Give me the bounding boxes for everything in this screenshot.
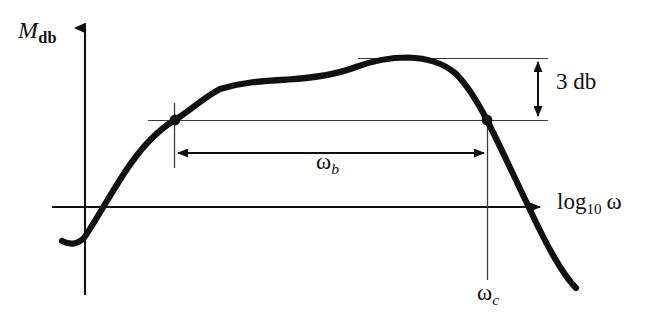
dimension-arrows-group [178, 62, 538, 153]
cutoff-point-dot [482, 115, 493, 126]
y-axis-label-subscript: db [38, 28, 56, 47]
bandwidth-label-subscript: b [331, 160, 339, 177]
bandwidth-label-base: ω [316, 149, 331, 174]
x-axis-label-subscript: 10 [586, 200, 601, 217]
x-axis-label: log10ω [557, 190, 622, 213]
reference-lines-group [148, 59, 548, 281]
cutoff-label-base: ω [477, 280, 492, 305]
bandwidth-lower-point-dot [170, 115, 181, 126]
gain-drop-label: 3 db [556, 70, 596, 93]
bode-plot-figure: Mdb log10ω 3 db ωb ωc [0, 0, 647, 316]
x-axis-label-omega: ω [607, 189, 622, 214]
bandwidth-label: ωb [316, 150, 339, 173]
x-axis-label-base: log [557, 189, 586, 214]
y-axis-label: Mdb [18, 18, 56, 42]
cutoff-label-subscript: c [492, 291, 499, 308]
axes-group [52, 28, 540, 295]
cutoff-label: ωc [477, 281, 499, 304]
y-axis-label-base: M [18, 17, 38, 43]
